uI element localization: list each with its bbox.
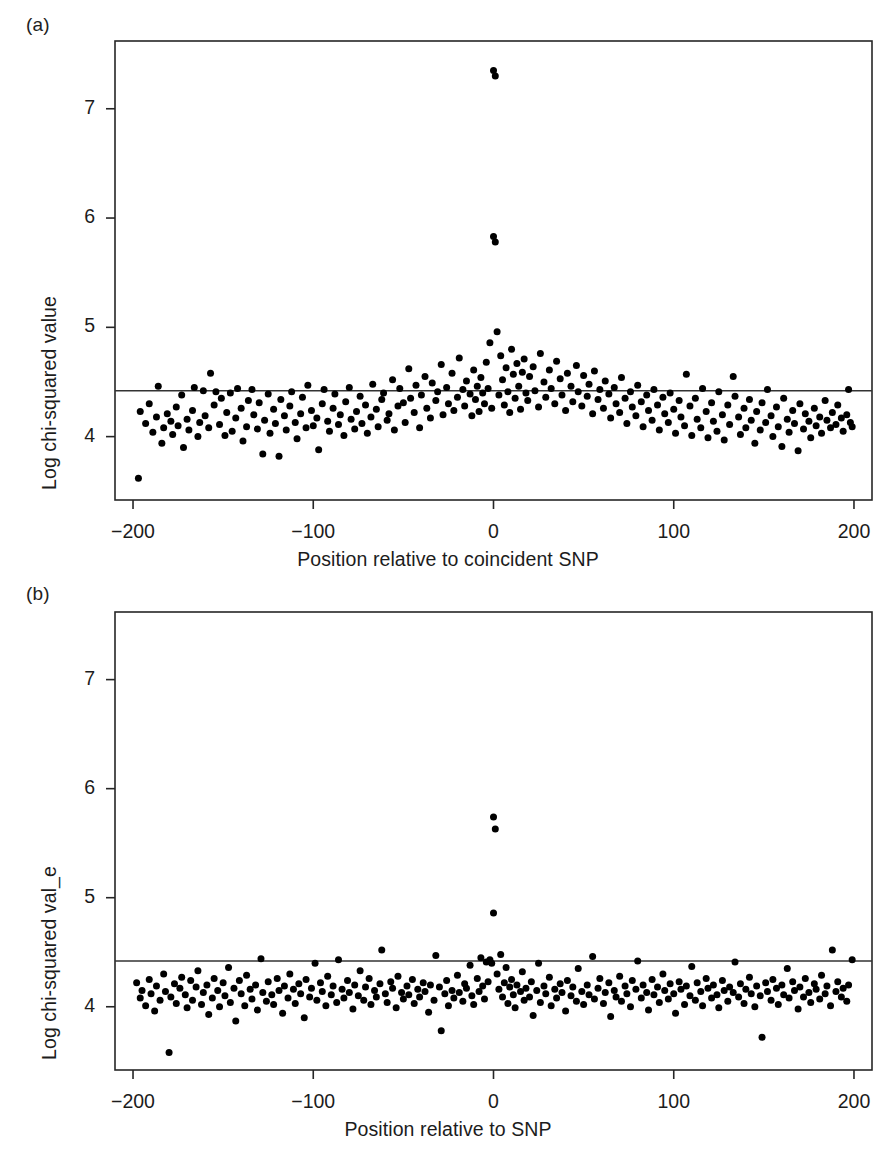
- scatter-point: [270, 406, 277, 413]
- scatter-point: [849, 956, 856, 963]
- scatter-point: [376, 980, 383, 987]
- scatter-point: [513, 360, 520, 367]
- scatter-point: [259, 989, 266, 996]
- scatter-point: [596, 386, 603, 393]
- scatter-point: [259, 451, 266, 458]
- scatter-point: [506, 984, 513, 991]
- scatter-point: [813, 422, 820, 429]
- scatter-point: [654, 401, 661, 408]
- scatter-point: [331, 390, 338, 397]
- scatter-point: [602, 989, 609, 996]
- scatter-point: [467, 390, 474, 397]
- scatter-point: [834, 978, 841, 985]
- scatter-point: [367, 413, 374, 420]
- scatter-point: [479, 389, 486, 396]
- scatter-point: [546, 974, 553, 981]
- scatter-point: [807, 999, 814, 1006]
- scatter-point: [622, 983, 629, 990]
- scatter-point: [205, 1011, 212, 1018]
- scatter-point: [463, 985, 470, 992]
- scatter-point: [232, 415, 239, 422]
- scatter-point: [802, 410, 809, 417]
- scatter-point: [238, 405, 245, 412]
- scatter-point: [832, 421, 839, 428]
- scatter-point: [313, 415, 320, 422]
- scatter-point: [436, 984, 443, 991]
- scatter-point: [292, 1000, 299, 1007]
- scatter-point: [640, 423, 647, 430]
- scatter-point: [611, 987, 618, 994]
- scatter-point: [189, 407, 196, 414]
- scatter-point: [389, 376, 396, 383]
- scatter-point: [535, 960, 542, 967]
- scatter-point: [281, 983, 288, 990]
- scatter-point: [488, 405, 495, 412]
- scatter-point: [522, 389, 529, 396]
- scatter-point: [254, 425, 261, 432]
- scatter-point: [822, 990, 829, 997]
- scatter-point: [178, 392, 185, 399]
- scatter-point: [737, 980, 744, 987]
- scatter-point: [802, 975, 809, 982]
- y-tick-label: 6: [53, 205, 95, 228]
- scatter-point: [719, 411, 726, 418]
- scatter-point: [422, 373, 429, 380]
- scatter-point: [225, 964, 232, 971]
- scatter-point: [481, 996, 488, 1003]
- scatter-point: [326, 428, 333, 435]
- scatter-point: [713, 991, 720, 998]
- scatter-point: [488, 960, 495, 967]
- scatter-point: [474, 975, 481, 982]
- scatter-point: [286, 403, 293, 410]
- scatter-point: [257, 955, 264, 962]
- scatter-point: [342, 398, 349, 405]
- scatter-point: [479, 983, 486, 990]
- scatter-point: [694, 416, 701, 423]
- scatter-point: [477, 954, 484, 961]
- scatter-point: [321, 386, 328, 393]
- scatter-point: [173, 1000, 180, 1007]
- scatter-point: [164, 410, 171, 417]
- scatter-point: [575, 965, 582, 972]
- scatter-point: [400, 399, 407, 406]
- scatter-point: [584, 393, 591, 400]
- scatter-point: [485, 978, 492, 985]
- scatter-point: [551, 400, 558, 407]
- x-tick-label: −200: [93, 1090, 173, 1113]
- scatter-point: [753, 983, 760, 990]
- scatter-point: [569, 984, 576, 991]
- scatter-point: [142, 1002, 149, 1009]
- scatter-point: [411, 1000, 418, 1007]
- scatter-point: [542, 394, 549, 401]
- scatter-point: [692, 395, 699, 402]
- scatter-point: [230, 985, 237, 992]
- scatter-point: [622, 395, 629, 402]
- scatter-point: [683, 371, 690, 378]
- scatter-point: [656, 999, 663, 1006]
- scatter-point: [676, 397, 683, 404]
- scatter-point: [558, 392, 565, 399]
- scatter-point: [589, 410, 596, 417]
- scatter-point: [613, 993, 620, 1000]
- scatter-point: [171, 980, 178, 987]
- scatter-point: [656, 427, 663, 434]
- scatter-point: [845, 386, 852, 393]
- scatter-point: [416, 424, 423, 431]
- scatter-point: [470, 366, 477, 373]
- scatter-point: [378, 396, 385, 403]
- scatter-point: [221, 992, 228, 999]
- scatter-point: [477, 374, 484, 381]
- scatter-point: [676, 978, 683, 985]
- scatter-point: [568, 992, 575, 999]
- scatter-point: [805, 418, 812, 425]
- scatter-point: [654, 984, 661, 991]
- scatter-point: [432, 952, 439, 959]
- scatter-point: [607, 1013, 614, 1020]
- scatter-point: [535, 404, 542, 411]
- scatter-point: [211, 975, 218, 982]
- scatter-point: [456, 989, 463, 996]
- scatter-point: [697, 988, 704, 995]
- scatter-point: [688, 963, 695, 970]
- scatter-point: [384, 999, 391, 1006]
- scatter-point: [445, 400, 452, 407]
